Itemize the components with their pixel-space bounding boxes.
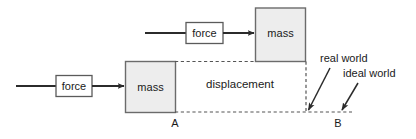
real-world-leader-arrow <box>309 68 331 110</box>
diagram-canvas: force mass force mass <box>0 0 416 139</box>
upper-mass-box-label: mass <box>267 27 294 39</box>
point-label-b: B <box>334 117 341 129</box>
lower-force-box-label: force <box>62 80 86 92</box>
ideal-world-leader-arrow <box>342 83 358 110</box>
upper-system: force mass <box>145 8 306 62</box>
ideal-world-label: ideal world <box>343 67 396 79</box>
point-label-a: A <box>171 117 179 129</box>
displacement-label: displacement <box>206 78 275 90</box>
displacement-region: displacement <box>175 62 352 113</box>
real-world-label: real world <box>320 52 368 64</box>
point-labels: A B <box>171 117 341 129</box>
upper-force-box-label: force <box>192 27 216 39</box>
diagram-svg: force mass force mass <box>0 0 416 139</box>
lower-mass-box-label: mass <box>137 81 164 93</box>
annotations: real world ideal world <box>309 52 396 110</box>
lower-system: force mass <box>16 62 176 113</box>
